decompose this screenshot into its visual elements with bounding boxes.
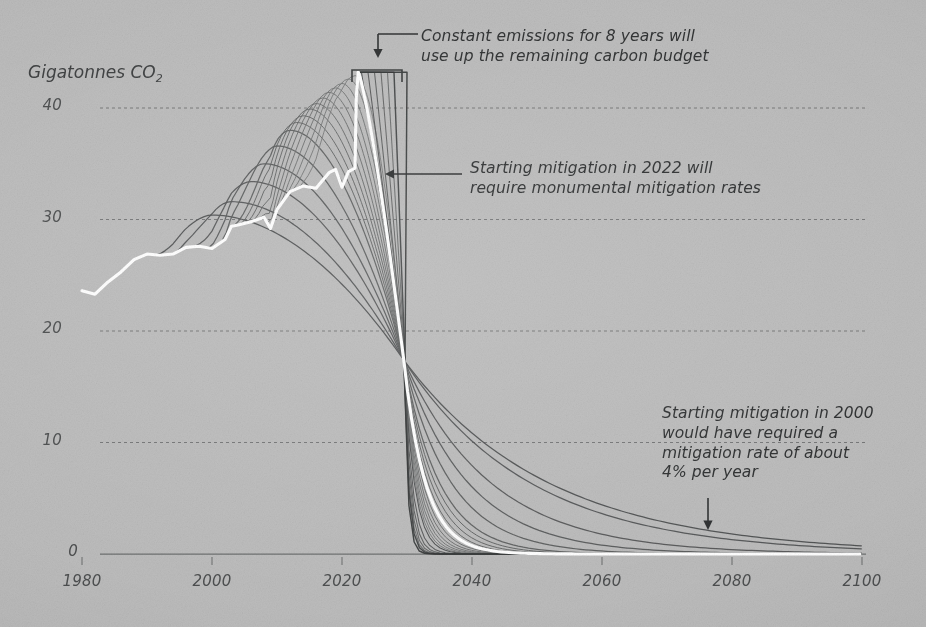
- annotation-mitigation-2022: Starting mitigation in 2022 will require…: [470, 159, 761, 199]
- x-axis-tick-label: 1980: [63, 572, 102, 590]
- y-axis-tick-label: 20: [43, 319, 63, 337]
- x-axis-ticks: [82, 557, 862, 565]
- emissions-pathways-plot: [0, 0, 926, 627]
- y-axis-tick-label: 10: [43, 431, 63, 449]
- annotation-constant-emissions: Constant emissions for 8 years will use …: [421, 27, 709, 67]
- scenario-curve: [154, 215, 862, 546]
- y-axis-title-subscript: 2: [156, 72, 163, 85]
- x-axis-tick-label: 2000: [193, 572, 232, 590]
- x-axis-tick-label: 2040: [453, 572, 492, 590]
- y-axis-tick-label: 40: [43, 96, 63, 114]
- y-axis-tick-label: 0: [68, 542, 78, 560]
- chart-canvas: Gigatonnes CO2 010203040 198020002020204…: [0, 0, 926, 627]
- x-axis-tick-label: 2100: [843, 572, 882, 590]
- arrow-head-mitigation-2000: [703, 520, 712, 530]
- scenario-curve: [284, 83, 862, 554]
- scenario-curve: [173, 202, 861, 549]
- scenario-curve: [219, 146, 862, 554]
- y-axis-title-text: Gigatonnes CO: [28, 62, 156, 82]
- scenario-curve: [193, 182, 862, 553]
- x-axis-tick-label: 2020: [323, 572, 362, 590]
- scenario-curve: [206, 164, 862, 554]
- arrow-head-constant-emissions: [373, 49, 382, 58]
- x-axis-tick-label: 2060: [583, 572, 622, 590]
- y-axis-tick-label: 30: [43, 208, 63, 226]
- annotation-mitigation-2000: Starting mitigation in 2000 would have r…: [662, 404, 874, 483]
- y-axis-title: Gigatonnes CO2: [28, 62, 163, 85]
- x-axis-tick-label: 2080: [713, 572, 752, 590]
